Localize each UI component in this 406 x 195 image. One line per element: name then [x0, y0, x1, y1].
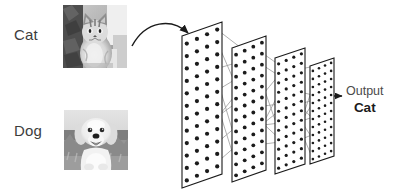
node: [195, 136, 199, 140]
node: [292, 65, 295, 68]
node: [324, 136, 327, 139]
node: [251, 133, 255, 137]
node: [300, 81, 303, 84]
node: [195, 62, 199, 66]
node: [234, 86, 238, 90]
node: [195, 37, 199, 41]
node: [292, 112, 295, 115]
node: [330, 62, 333, 65]
node: [300, 147, 303, 150]
node: [251, 111, 255, 115]
node: [300, 52, 303, 55]
node: [260, 96, 264, 100]
node: [318, 155, 321, 158]
node: [318, 107, 321, 110]
node: [300, 71, 303, 74]
node: [285, 59, 288, 62]
node: [205, 157, 209, 161]
node: [277, 62, 280, 65]
node: [243, 115, 247, 119]
node: [251, 45, 255, 49]
node: [318, 99, 321, 102]
node: [251, 67, 255, 71]
node: [260, 107, 264, 111]
node: [324, 80, 327, 83]
node: [312, 158, 315, 161]
node: [215, 139, 219, 143]
node: [277, 81, 280, 84]
node: [205, 132, 209, 136]
node: [205, 57, 209, 61]
node: [324, 96, 327, 99]
node: [185, 66, 189, 70]
node: [318, 115, 321, 118]
node: [318, 139, 321, 142]
node: [277, 72, 280, 75]
node: [185, 129, 189, 133]
node: [215, 40, 219, 44]
node: [243, 158, 247, 162]
node: [185, 91, 189, 95]
network-canvas: [0, 0, 406, 195]
node: [215, 115, 219, 119]
node: [260, 129, 264, 133]
node: [330, 70, 333, 73]
node: [330, 86, 333, 89]
node: [285, 135, 288, 138]
node: [243, 147, 247, 151]
node: [215, 164, 219, 168]
node: [215, 90, 219, 94]
node: [285, 78, 288, 81]
node: [312, 70, 315, 73]
node: [185, 141, 189, 145]
node: [330, 126, 333, 129]
node: [324, 88, 327, 91]
node: [330, 78, 333, 81]
node: [324, 72, 327, 75]
node: [205, 169, 209, 173]
node: [285, 97, 288, 100]
node: [318, 147, 321, 150]
neural-network-diagram: Cat Dog Output Cat: [0, 0, 406, 195]
node: [277, 100, 280, 103]
node: [285, 68, 288, 71]
node: [251, 122, 255, 126]
node: [243, 137, 247, 141]
node: [330, 118, 333, 121]
node: [300, 119, 303, 122]
node: [243, 169, 247, 173]
node: [195, 174, 199, 178]
node: [285, 125, 288, 128]
node: [324, 120, 327, 123]
node: [300, 109, 303, 112]
node: [324, 144, 327, 147]
node: [185, 79, 189, 83]
node: [330, 102, 333, 105]
node: [285, 163, 288, 166]
node: [215, 102, 219, 106]
node: [195, 87, 199, 91]
node: [234, 53, 238, 57]
node: [285, 87, 288, 90]
node: [312, 110, 315, 113]
node: [330, 142, 333, 145]
node: [195, 149, 199, 153]
node: [277, 148, 280, 151]
node: [300, 62, 303, 65]
node: [292, 141, 295, 144]
node: [300, 138, 303, 141]
node: [215, 77, 219, 81]
node: [215, 52, 219, 56]
node: [277, 91, 280, 94]
node: [185, 116, 189, 120]
node: [195, 99, 199, 103]
node: [205, 82, 209, 86]
node: [285, 116, 288, 119]
node: [330, 110, 333, 113]
node: [195, 124, 199, 128]
node: [292, 103, 295, 106]
node: [215, 127, 219, 131]
node: [260, 150, 264, 154]
node: [260, 85, 264, 89]
node: [318, 75, 321, 78]
